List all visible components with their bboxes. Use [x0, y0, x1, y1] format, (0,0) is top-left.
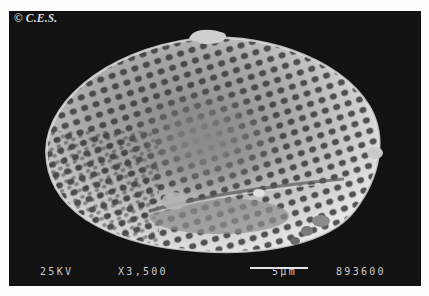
image-number-label: 893600 — [336, 266, 386, 277]
pollen-grain-image — [9, 11, 421, 286]
magnification-label: X3,500 — [118, 266, 168, 277]
sem-micrograph: © C.E.S. 25KV X3,500 5µm 893600 — [9, 11, 421, 286]
scale-label: 5µm — [272, 266, 297, 277]
copyright-label: © C.E.S. — [14, 12, 57, 24]
grain-pore-right — [367, 147, 383, 159]
voltage-label: 25KV — [40, 266, 73, 277]
